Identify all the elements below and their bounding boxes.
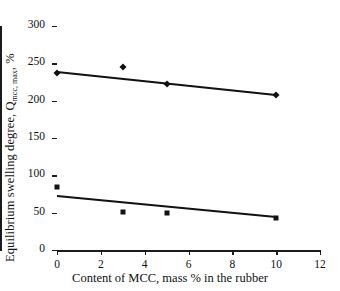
y-axis-tick-label: 100 [28,167,45,179]
x-axis-tick-label: 4 [142,258,148,270]
chart-figure: Equilibrium swelling degree, Qmcc, max, … [0,0,340,291]
y-axis-tick-label: 0 [39,242,45,254]
y-axis-title-units: , % [3,53,17,70]
y-axis-tick-label: 250 [28,55,45,67]
data-point-series-2 [55,185,60,190]
x-axis-tick: 8 [232,250,233,255]
data-point-series-2 [274,215,279,220]
x-axis-tick-label: 12 [314,258,326,270]
y-axis-tick: 250 [52,63,57,64]
data-point-series-1 [163,81,170,88]
y-axis-tick: 200 [52,101,57,102]
plot-area: 05010015020025030002468101212 [57,26,320,250]
y-axis-tick-label: 50 [34,205,46,217]
x-axis-tick: 10 [276,250,277,255]
y-axis-title-subscript: mcc, max [10,70,19,101]
y-axis-tick: 300 [52,26,57,27]
data-point-series-2 [120,209,125,214]
x-axis-title: Content of MCC, mass % in the rubber [0,271,340,286]
x-axis-tick-label: 10 [270,258,282,270]
data-point-series-1 [273,91,280,98]
y-axis-title: Equilibrium swelling degree, Qmcc, max, … [3,53,19,262]
y-axis-line [0,26,2,251]
y-axis-title-main: Equilibrium swelling degree, Q [3,101,17,262]
y-axis-tick-label: 150 [28,130,45,142]
x-axis-tick: 6 [189,250,190,255]
y-axis-tick-label: 300 [28,18,45,30]
x-axis-tick-label: 6 [186,258,192,270]
x-axis-tick: 2 [101,250,102,255]
x-axis-tick: 0 [57,250,58,255]
y-axis-tick: 150 [52,138,57,139]
x-axis-tick: 4 [145,250,146,255]
x-axis-tick-label: 8 [229,258,235,270]
x-axis-tick: 12 [320,250,321,255]
x-axis-tick-label: 0 [54,258,60,270]
y-axis-tick: 100 [52,175,57,176]
data-point-series-2 [164,211,169,216]
data-point-series-1 [119,64,126,71]
y-axis-title-container: Equilibrium swelling degree, Qmcc, max, … [0,0,26,265]
x-axis-tick-label: 2 [98,258,104,270]
y-axis-tick-label: 200 [28,93,45,105]
y-axis-tick: 50 [52,213,57,214]
